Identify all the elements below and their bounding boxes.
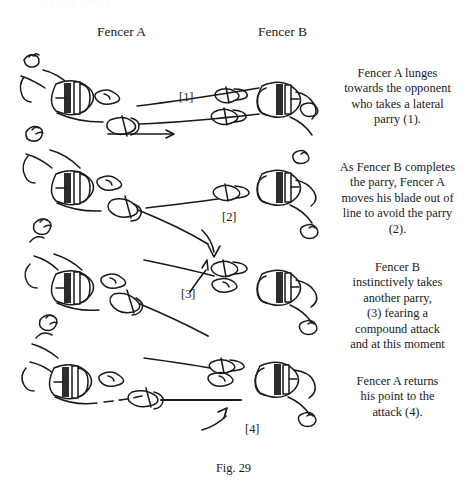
fencer-b-sword-hand-icon xyxy=(213,184,249,201)
caption-line: instinctively takes xyxy=(328,275,467,290)
fencer-b-guard-hand-icon xyxy=(212,278,237,292)
fencer-a-lower-hand-icon xyxy=(34,219,51,234)
caption-line: As Fencer B completes xyxy=(328,160,467,175)
fencer-b-mask-icon xyxy=(255,362,299,397)
fencer-a-front-hand-icon xyxy=(101,274,126,288)
caption-line: moves his blade out of xyxy=(328,191,467,206)
caption-line: attack (4). xyxy=(328,405,467,420)
fencer-a-front-hand-icon xyxy=(97,176,122,190)
panel-1: Fencer A lunges towards the opponent who… xyxy=(0,44,467,148)
fencer-b-sword-hand-icon xyxy=(211,260,247,277)
caption-line: line to avoid the parry xyxy=(328,206,467,221)
fencer-b-mask-icon xyxy=(257,82,301,117)
fencer-b-sword-hand-upper-icon xyxy=(209,358,244,374)
caption-line: and at this moment xyxy=(328,337,467,352)
blade-deflection-arrow-icon xyxy=(202,230,220,257)
caption-line: another parry, xyxy=(328,291,467,306)
caption-line: (3) fearing a xyxy=(328,306,467,321)
caption-line: (2). xyxy=(328,222,467,237)
fencer-a-front-hand-icon xyxy=(99,372,124,386)
panel-2-caption: As Fencer B completes the parry, Fencer … xyxy=(328,160,467,237)
panel-1-caption: Fencer A lunges towards the opponent who… xyxy=(328,66,467,128)
fencer-a-mask-icon xyxy=(50,365,92,399)
panel-4-caption: Fencer A returns his point to the attack… xyxy=(328,374,467,420)
fencer-a-mask-icon xyxy=(52,81,94,115)
caption-line: the parry, Fencer A xyxy=(328,175,467,190)
figure-number: Fig. 29 xyxy=(0,461,467,476)
fencer-b-guard-hand-icon xyxy=(208,372,233,386)
panel-2: As Fencer B completes the parry, Fencer … xyxy=(0,148,467,254)
fencer-b-rear-hand-icon xyxy=(300,103,317,116)
fencer-a-lower-hand-icon xyxy=(40,315,57,330)
fencer-a-front-hand-icon xyxy=(95,90,120,104)
clipped-heading: FENCING xyxy=(40,0,220,6)
forward-motion-arrow-icon xyxy=(108,130,174,138)
fencer-a-sword-hand-icon xyxy=(108,196,141,221)
fencer-a-lower-hand-icon xyxy=(26,127,43,142)
caption-line: compound attack xyxy=(328,322,467,337)
step-label-1: [1] xyxy=(179,90,193,105)
column-header-fencer-b: Fencer B xyxy=(258,24,307,40)
panel-3-illustration xyxy=(4,254,326,360)
caption-line: who takes a lateral xyxy=(328,97,467,112)
step-label-3: [3] xyxy=(181,287,195,302)
caption-line: Fencer A returns xyxy=(328,374,467,389)
fencer-b-rear-hand-icon xyxy=(299,321,316,335)
fencer-b-rear-hand-icon xyxy=(300,225,317,239)
figure-page: FENCING Fencer A Fencer B xyxy=(0,0,467,490)
caption-line: parry (1). xyxy=(328,112,467,127)
panel-3-caption: Fencer B instinctively takes another par… xyxy=(328,260,467,352)
caption-line: his point to the xyxy=(328,389,467,404)
fencer-b-mask-icon xyxy=(257,170,301,205)
panel-4: Fencer A returns his point to the attack… xyxy=(0,360,467,452)
fencer-a-rear-hand-icon xyxy=(24,54,39,67)
fencer-b-upper-hand-icon xyxy=(293,151,309,164)
fencer-b-mask-icon xyxy=(257,270,301,305)
fencer-a-mask-icon xyxy=(52,271,94,305)
caption-line: Fencer A lunges xyxy=(328,66,467,81)
fencer-a-sword-hand-icon xyxy=(110,290,143,315)
step-label-4: [4] xyxy=(245,422,259,437)
return-attack-arrow-icon xyxy=(202,408,227,430)
fencer-b-rear-hand-icon xyxy=(298,413,315,427)
step-label-2: [2] xyxy=(222,210,236,225)
column-header-fencer-a: Fencer A xyxy=(97,24,146,40)
panel-3: Fencer B instinctively takes another par… xyxy=(0,254,467,360)
fencer-a-mask-icon xyxy=(52,171,94,205)
panel-4-illustration xyxy=(4,360,326,452)
caption-line: towards the opponent xyxy=(328,81,467,96)
panel-1-illustration xyxy=(4,44,326,148)
caption-line: Fencer B xyxy=(328,260,467,275)
fencer-a-sword-hand-icon xyxy=(107,116,139,136)
panel-2-illustration xyxy=(4,148,326,254)
fencer-a-sword-hand-icon xyxy=(128,388,163,409)
